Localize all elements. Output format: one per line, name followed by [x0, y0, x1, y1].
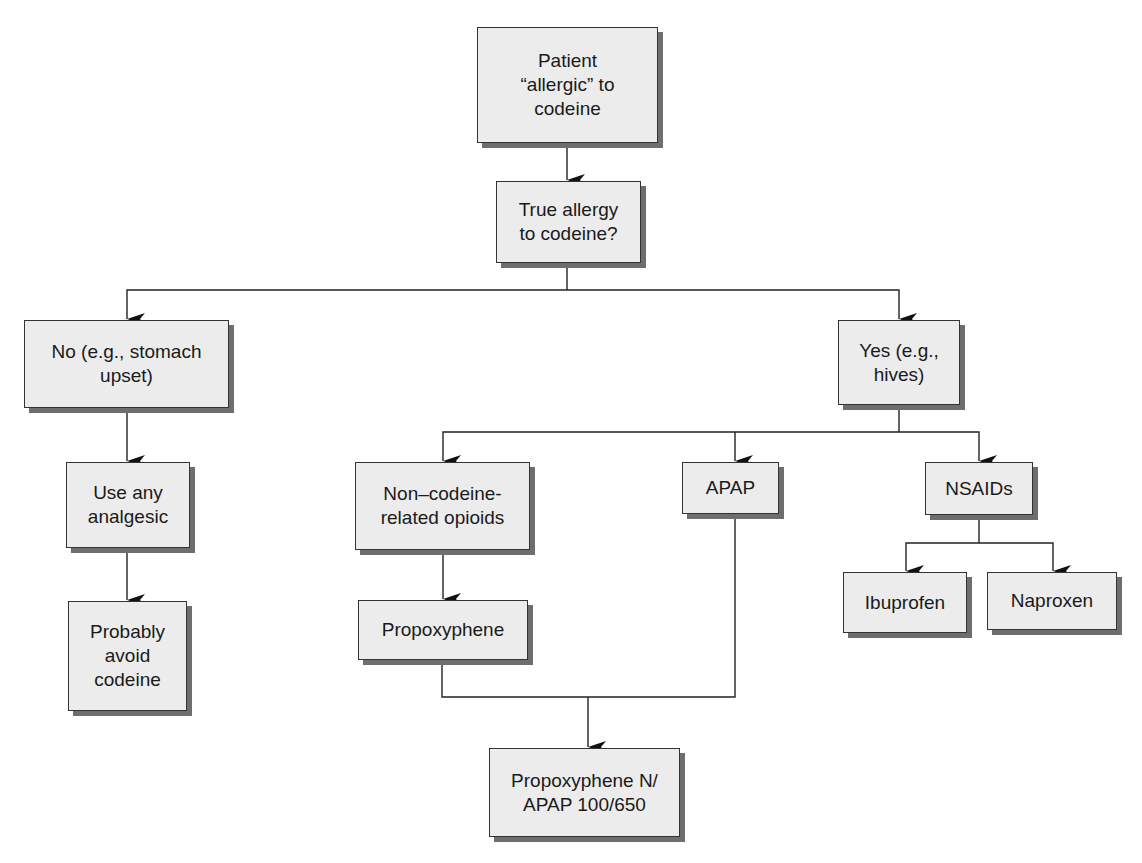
node-propoxyphene: Propoxyphene [358, 600, 528, 660]
edge-split-no [127, 290, 567, 319]
node-nsaids: NSAIDs [925, 462, 1033, 515]
node-no-stomach-upset: No (e.g., stomach upset) [24, 320, 229, 408]
edge-nsaids-naproxen [979, 543, 1053, 571]
edge-branch-nsaids [899, 432, 979, 461]
node-probably-avoid-codeine: Probably avoid codeine [68, 601, 187, 711]
node-naproxen: Naproxen [987, 572, 1117, 630]
edge-split-yes [567, 290, 899, 319]
edge-nsaids-ibuprofen [906, 543, 979, 571]
node-ibuprofen: Ibuprofen [843, 572, 967, 633]
node-patient-allergic: Patient “allergic” to codeine [477, 27, 658, 143]
edge-branch-noncodeine [443, 432, 899, 461]
node-use-any-analgesic: Use any analgesic [66, 462, 190, 548]
node-apap: APAP [682, 462, 779, 514]
node-yes-hives: Yes (e.g., hives) [838, 320, 960, 405]
node-propoxyphene-apap-combo: Propoxyphene N/ APAP 100/650 [489, 748, 680, 837]
node-true-allergy-question: True allergy to codeine? [496, 181, 641, 263]
node-non-codeine-opioids: Non–codeine- related opioids [355, 462, 530, 550]
